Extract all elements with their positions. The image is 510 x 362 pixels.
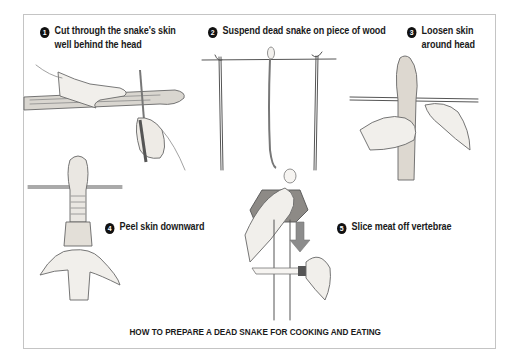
- step-1-caption: 1Cut through the snake's skin well behin…: [40, 24, 176, 51]
- illustration-artwork: [0, 0, 510, 362]
- step-2-caption: 2Suspend dead snake on piece of wood: [208, 24, 386, 38]
- step-4-caption: 4Peel skin downward: [105, 220, 204, 234]
- step-3-illustration: [350, 56, 478, 180]
- figure-title: HOW TO PREPARE A DEAD SNAKE FOR COOKING …: [0, 326, 510, 337]
- step-1-illustration: [24, 65, 185, 170]
- step-5-illustration: [245, 169, 330, 320]
- step-2-illustration: [202, 47, 336, 170]
- step-5-number: 5: [337, 223, 346, 234]
- step-3-number: 3: [407, 27, 416, 38]
- step-3-caption: 3Loosen skin around head: [407, 24, 475, 51]
- step-5-caption: 5Slice meat off vertebrae: [337, 220, 451, 234]
- step-1-number: 1: [40, 27, 49, 38]
- step-4-number: 4: [105, 223, 114, 234]
- step-2-number: 2: [208, 27, 217, 38]
